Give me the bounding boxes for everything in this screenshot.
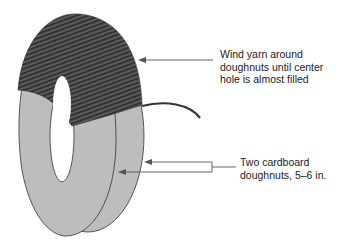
doughnuts-label: Two cardboard doughnuts, 5–6 in. [240, 156, 326, 181]
wind-yarn-label: Wind yarn around doughnuts until center … [220, 48, 323, 86]
pompom-diagram [0, 0, 338, 252]
yarn-tail [142, 103, 200, 118]
wind-yarn-arrow [138, 57, 213, 63]
